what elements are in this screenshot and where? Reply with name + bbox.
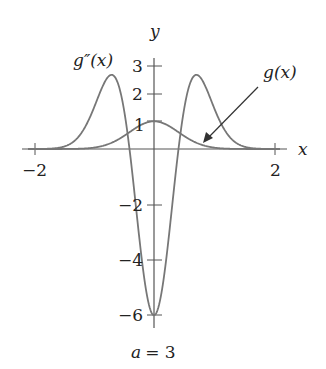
caption: a= 3 (131, 342, 176, 362)
y-tick-label: 2 (132, 84, 143, 104)
x-tick-label: 2 (270, 160, 281, 180)
y-tick-label: −2 (118, 195, 143, 215)
y-tick-label: −6 (118, 305, 143, 325)
y-tick-label: −4 (118, 250, 143, 270)
x-tick-label: −2 (22, 160, 47, 180)
gpp-label: g″(x) (73, 50, 113, 70)
y-axis-label: y (149, 21, 160, 41)
y-tick-label: 1 (134, 115, 145, 135)
chart: y x g″(x) g(x) −2 2 3 2 1 −2 −4 −6 a= 3 (0, 0, 326, 369)
g-label: g(x) (263, 62, 297, 82)
y-tick-label: 3 (132, 56, 143, 76)
x-axis-label: x (298, 139, 308, 159)
g-arrow (207, 87, 258, 139)
